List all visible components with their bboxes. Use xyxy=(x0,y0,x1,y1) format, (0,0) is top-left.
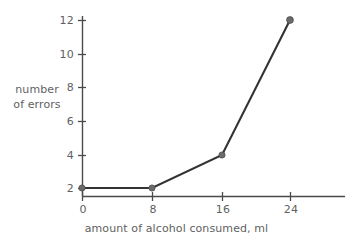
data-point-0-2 xyxy=(79,185,85,191)
x-tick-label-8: 8 xyxy=(138,203,168,216)
x-tick-label-0: 0 xyxy=(68,203,98,216)
data-point-16-4 xyxy=(219,152,225,158)
y-tick-label-6: 6 xyxy=(44,115,74,128)
y-axis-title: number of errors xyxy=(4,82,70,112)
y-axis-title-line-1: number xyxy=(4,82,70,97)
series-line-number-of-errors xyxy=(82,20,290,188)
y-axis-title-line-2: of errors xyxy=(4,97,70,112)
x-axis-title: amount of alcohol consumed, ml xyxy=(0,222,353,235)
data-point-8-2 xyxy=(149,185,155,191)
y-tick-label-12: 12 xyxy=(44,14,74,27)
y-tick-label-4: 4 xyxy=(44,149,74,162)
x-tick-label-24: 24 xyxy=(276,203,306,216)
y-tick-label-2: 2 xyxy=(44,182,74,195)
x-tick-label-16: 16 xyxy=(208,203,238,216)
data-point-24-12 xyxy=(287,17,294,24)
y-tick-label-10: 10 xyxy=(44,48,74,61)
series-markers xyxy=(79,17,294,191)
chart-container: 2 4 6 8 10 12 0 8 16 24 amount of alcoho… xyxy=(0,0,353,242)
